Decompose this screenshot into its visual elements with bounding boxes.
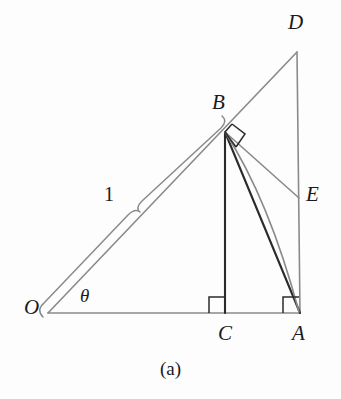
figure-caption: (a) — [0, 358, 341, 380]
segment-line-BE — [225, 132, 299, 198]
geometry-canvas — [0, 0, 341, 399]
right-angle-marker-B-edge-a — [225, 124, 232, 132]
vertex-label-E: E — [306, 184, 319, 205]
vertex-label-C: C — [218, 323, 232, 344]
vertical-line-DA — [297, 52, 300, 313]
vertex-label-A: A — [292, 323, 305, 344]
angle-label-theta: θ — [80, 286, 89, 305]
geometry-figure: O A B C D E 1 θ (a) — [0, 0, 341, 399]
segment-line-BA — [225, 132, 300, 313]
vertex-label-B: B — [212, 92, 225, 113]
vertex-label-O: O — [24, 297, 39, 318]
length-label-one: 1 — [104, 184, 114, 204]
vertex-label-D: D — [288, 12, 303, 33]
measure-brace-OB — [40, 116, 225, 317]
right-angle-marker-C — [209, 297, 225, 313]
hypotenuse-line-OD — [48, 52, 297, 313]
